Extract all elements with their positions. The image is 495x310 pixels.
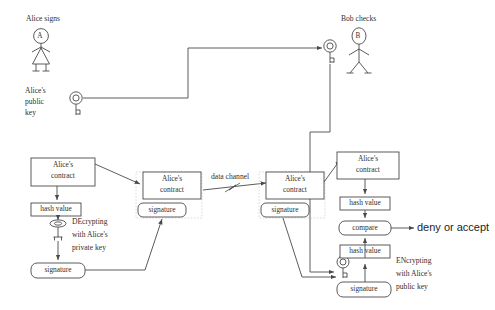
public-key-transfer-path bbox=[83, 48, 322, 98]
box-contract-mid-line2: contract bbox=[143, 185, 201, 196]
bob-head-letter: B bbox=[356, 32, 361, 41]
box-contract-right-line2: contract bbox=[337, 165, 399, 176]
alice-public-key-label-line2: public bbox=[25, 97, 44, 106]
encrypt-note-line3: public key bbox=[396, 282, 428, 291]
bob-key-down-path bbox=[310, 64, 334, 272]
decrypt-note-line1: DEcrypting bbox=[72, 217, 107, 226]
box-contract-mid2-line2: contract bbox=[266, 185, 324, 196]
decrypt-note-line2: with Alice's bbox=[72, 230, 108, 239]
alice-public-key-label-line1: Alice's bbox=[25, 86, 46, 95]
alice-title: Alice signs bbox=[26, 14, 60, 23]
box-signature-left-label: signature bbox=[31, 263, 85, 278]
box-contract-mid2-line1: Alice's bbox=[266, 174, 324, 185]
box-contract-mid-line1: Alice's bbox=[143, 174, 201, 185]
box-signature-mid-label: signature bbox=[138, 203, 186, 217]
decrypt-note-line3: private key bbox=[72, 243, 106, 252]
key-icon-alice-public-right bbox=[337, 256, 349, 278]
box-contract-right-line1: Alice's bbox=[337, 154, 399, 165]
private-key-icon bbox=[50, 220, 66, 241]
box-signature-right-label: signature bbox=[337, 282, 391, 297]
key-icon-alice-public bbox=[70, 92, 82, 115]
outcome-label: deny or accept bbox=[417, 221, 489, 234]
data-channel-label: data channel bbox=[211, 172, 249, 181]
box-contract-left-line2: contract bbox=[31, 171, 95, 182]
box-signature-mid2-label: signature bbox=[261, 203, 309, 217]
alice-head-letter: A bbox=[37, 32, 42, 41]
key-icon-bob-receives bbox=[324, 40, 336, 63]
box-hash-left-label: hash value bbox=[31, 203, 81, 216]
box-hash-right-bottom-label: hash value bbox=[340, 245, 390, 258]
encrypt-note-line1: ENcrypting bbox=[396, 256, 431, 265]
box-hash-right-top-label: hash value bbox=[340, 197, 390, 210]
bob-title: Bob checks bbox=[341, 14, 376, 23]
alice-public-key-label-line3: key bbox=[25, 108, 36, 117]
box-contract-left-line1: Alice's bbox=[31, 160, 95, 171]
box-compare-label: compare bbox=[339, 221, 391, 235]
diagram-canvas: Alice signs Bob checks A B Alice's publi… bbox=[0, 0, 495, 310]
encrypt-note-line2: with Alice's bbox=[396, 269, 432, 278]
